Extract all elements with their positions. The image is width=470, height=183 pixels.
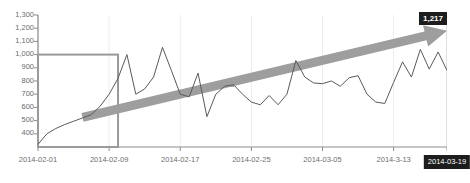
x-axis-tick-label: 2014-02-01 xyxy=(19,155,57,164)
end-value-badge: 1,217 xyxy=(419,12,447,25)
x-axis-tick-label-selected[interactable]: 2014-03-19 xyxy=(424,155,470,169)
x-axis-tick-label: 2014-02-17 xyxy=(161,155,199,164)
x-axis-tick-label: 2014-3-13 xyxy=(377,155,411,164)
x-axis-tick-label: 2014-03-05 xyxy=(303,155,341,164)
x-axis-tick-label: 2014-02-09 xyxy=(90,155,128,164)
x-axis-tick-label: 2014-02-25 xyxy=(232,155,270,164)
